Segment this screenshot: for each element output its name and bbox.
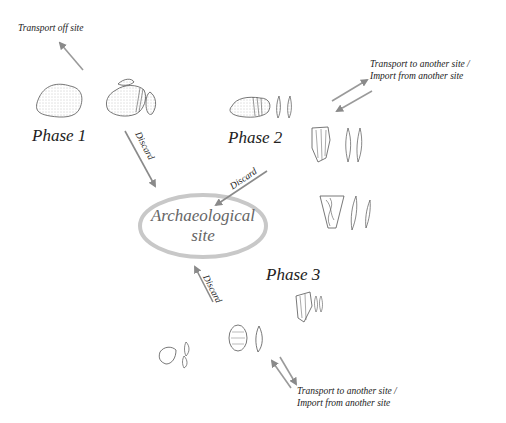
phase2-label: Phase 2 [228,128,282,148]
archaeological-site-label: Archaeological site [140,206,266,246]
site-label-line1: Archaeological [140,206,266,226]
import-from-label-phase2: Import from another site [370,70,463,82]
phase2-core-icon [230,97,270,117]
import-from-label-phase3: Import from another site [297,397,390,409]
transport-to-label-phase3: Transport to another site / [297,385,397,397]
phase2-bladelet-pair-icon [351,196,370,230]
phase3-label: Phase 3 [266,265,320,285]
transport-off-arrow [60,43,83,70]
phase1-label: Phase 1 [32,126,86,146]
phase3-flake-icon [159,342,189,368]
import-arrow-phase3 [272,361,291,388]
phase1-nodule-icon [37,84,82,117]
transport-off-label: Transport off site [18,22,83,34]
phase3-core-icon [296,292,323,322]
export-arrow-phase2 [332,80,367,101]
transport-to-label-phase2: Transport to another site / [370,58,470,70]
phase1-core-icon [106,79,155,116]
phase2-exhausted-core-icon [320,196,344,228]
export-arrow-phase3 [280,357,296,384]
phase2-prismatic-core-icon [312,127,330,162]
diagram-canvas: Transport off site Phase 1 Phase 2 Phase… [0,0,506,423]
site-label-line2: site [140,226,266,246]
phase3-nodule-icon [229,325,262,352]
phase2-blade-icon [277,96,292,118]
phase2-blade-pair-icon [346,128,362,162]
